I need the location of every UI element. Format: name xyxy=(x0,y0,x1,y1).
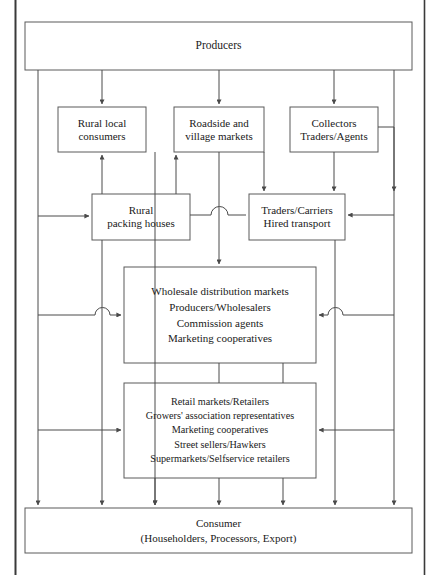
wholesale-label: Wholesale distribution markets Producers… xyxy=(124,267,316,363)
edge-rural-packing-to-traders-carriers xyxy=(190,207,246,216)
collectors-traders-agents-label: Collectors Traders/Agents xyxy=(288,107,380,152)
rural-local-consumers-label: Rural local consumers xyxy=(58,107,146,152)
edge-collectors-right-elbow xyxy=(378,127,394,191)
edge-left-trunk-to-wholesale xyxy=(38,308,121,315)
retail-label: Retail markets/Retailers Growers' associ… xyxy=(122,383,318,478)
marketing-chain-flowchart: Producers Rural local consumers Roadside… xyxy=(0,0,431,575)
traders-carriers-label: Traders/Carriers Hired transport xyxy=(248,194,346,240)
consumer-label: Consumer (Householders, Processors, Expo… xyxy=(25,508,412,553)
rural-packing-houses-label: Rural packing houses xyxy=(92,194,190,240)
edge-right-trunk-to-wholesale xyxy=(319,308,394,315)
producers-text: Producers xyxy=(196,39,242,53)
roadside-village-markets-label: Roadside and village markets xyxy=(174,107,264,152)
producers-label: Producers xyxy=(25,22,412,70)
